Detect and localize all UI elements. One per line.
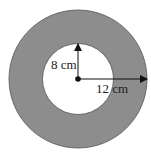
- center-point: [75, 76, 81, 82]
- inner-radius-label: 8 cm: [51, 57, 77, 72]
- annulus-diagram: 8 cm 12 cm: [0, 0, 151, 161]
- outer-radius-label: 12 cm: [96, 81, 128, 96]
